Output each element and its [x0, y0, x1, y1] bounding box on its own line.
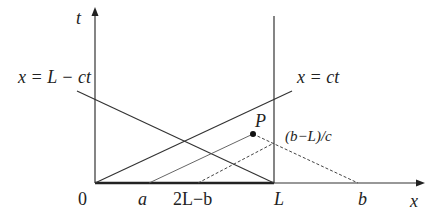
x-axis-arrow-icon: [416, 180, 425, 187]
tick-label-a: a: [138, 189, 147, 209]
x-axis-label: x: [409, 191, 418, 211]
tick-label-2L-minus-b: 2L−b: [173, 189, 212, 209]
t-axis-label: t: [76, 8, 82, 28]
characteristics-diagram: t x 0 x = L − ct x = ct P (b−L)/c a 2L−b…: [0, 0, 445, 222]
label-reflection-time: (b−L)/c: [285, 128, 332, 145]
characteristic-from-a: [149, 134, 253, 183]
characteristic-x-equals-ct: [95, 91, 292, 183]
label-P: P: [254, 111, 266, 131]
tick-label-b: b: [358, 189, 367, 209]
label-x-equals-ct: x = ct: [296, 67, 340, 87]
reflected-characteristic-from-2L-minus-b: [198, 143, 274, 183]
t-axis-arrow-icon: [92, 7, 99, 16]
label-x-equals-L-minus-ct: x = L − ct: [17, 67, 92, 87]
origin-label: 0: [78, 189, 87, 209]
characteristic-x-equals-L-minus-ct: [77, 91, 274, 183]
point-P: [250, 131, 256, 137]
tick-label-L: L: [273, 189, 284, 209]
